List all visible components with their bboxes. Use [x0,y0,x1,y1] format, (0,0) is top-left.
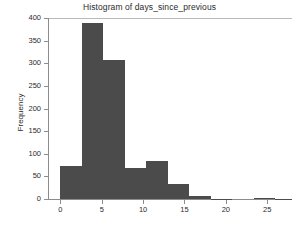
x-tick-mark [60,200,61,204]
histogram-figure: Histogram of days_since_previous Frequen… [0,0,299,229]
histogram-bar [82,23,104,199]
y-tick-label: 100 [12,150,41,158]
y-tick-label: 0 [12,195,41,203]
y-tick-label: 350 [12,37,41,45]
x-tick-label: 5 [90,206,114,214]
x-tick-mark [102,200,103,204]
histogram-bar [60,166,82,199]
histogram-bar [146,161,168,199]
x-tick-mark [184,200,185,204]
y-tick-label: 50 [12,172,41,180]
y-tick-label: 400 [12,14,41,22]
histogram-bar [254,198,276,199]
x-tick-label: 15 [172,206,196,214]
y-tick-mark [44,199,48,200]
histogram-bar [168,184,190,199]
x-tick-label: 25 [255,206,279,214]
histogram-bar [125,168,147,199]
x-tick-label: 10 [131,206,155,214]
x-axis-line [48,199,292,200]
x-tick-mark [267,200,268,204]
y-tick-label: 250 [12,82,41,90]
x-tick-label: 0 [48,206,72,214]
chart-title: Histogram of days_since_previous [0,2,299,12]
x-tick-label: 20 [214,206,238,214]
y-tick-label: 150 [12,127,41,135]
histogram-bar [103,60,125,199]
x-tick-mark [226,200,227,204]
y-tick-label: 200 [12,105,41,113]
y-tick-label: 300 [12,59,41,67]
histogram-bar [189,196,211,199]
x-tick-mark [143,200,144,204]
plot-area [48,18,292,199]
